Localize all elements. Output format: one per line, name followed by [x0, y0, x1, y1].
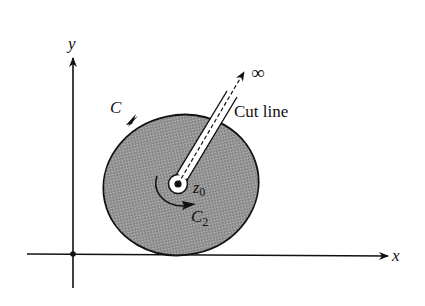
- infinity-label: ∞: [251, 62, 265, 83]
- contour-diagram: y x ∞ Cut line C z0 C2: [0, 0, 425, 306]
- y-axis-label: y: [66, 34, 76, 53]
- cut-line-label: Cut line: [234, 102, 288, 121]
- z0-point: [174, 180, 181, 187]
- c2-label-sub: 2: [202, 215, 208, 229]
- contour-c-label: C: [110, 98, 122, 117]
- origin-point: [70, 251, 76, 257]
- x-axis: [27, 254, 388, 256]
- z0-label-sub: 0: [199, 185, 205, 199]
- c2-label-main: C: [191, 207, 203, 226]
- x-axis-label: x: [391, 246, 400, 265]
